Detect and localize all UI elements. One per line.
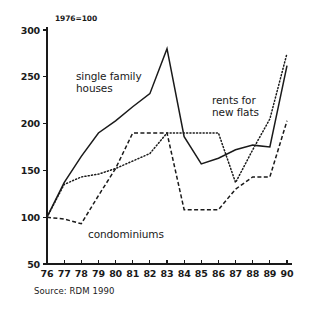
series-label-single-family-houses-line2: houses [76,82,113,94]
y-axis-tick-label: 150 [21,165,41,176]
x-axis-tick-label: 82 [143,268,156,279]
chart-container: 50100150200250300 7677787980818283848586… [0,0,310,310]
series-line-condominiums [47,121,287,224]
y-axis-tick-label: 200 [21,118,41,129]
series-label-single-family-houses-line1: single family [76,70,142,82]
series-label-rents-for-new-flats-line1: rents for [212,94,256,106]
x-axis-tick-labels: 767778798081828384858687888990 [41,268,294,279]
index-base-note: 1976=100 [55,14,97,23]
x-axis-tick-label: 81 [126,268,139,279]
x-axis-tick-label: 80 [109,268,122,279]
x-axis-tick-label: 85 [195,268,208,279]
x-axis-tick-label: 83 [161,268,174,279]
x-axis-tick-label: 78 [75,268,88,279]
x-axis-tick-label: 79 [92,268,105,279]
x-axis-tick-label: 77 [58,268,71,279]
y-axis-tick-label: 50 [27,259,40,270]
x-axis-tick-label: 86 [212,268,225,279]
y-axis-tick-label: 100 [21,212,41,223]
source-note: Source: RDM 1990 [34,286,114,296]
y-axis-tick-label: 250 [21,71,41,82]
y-axis-tick-label: 300 [21,25,41,36]
x-axis-tick-label: 84 [178,268,191,279]
y-axis-tick-labels: 50100150200250300 [21,25,41,270]
x-axis-tick-label: 87 [229,268,242,279]
series-label-rents-for-new-flats-line2: new flats [212,106,259,118]
x-axis-tick-label: 76 [41,268,54,279]
x-axis-tick-label: 88 [246,268,259,279]
x-axis-tick-label: 90 [281,268,294,279]
x-axis-tick-label: 89 [263,268,276,279]
series-label-condominiums: condominiums [88,228,164,240]
line-chart: 50100150200250300 7677787980818283848586… [0,0,310,310]
